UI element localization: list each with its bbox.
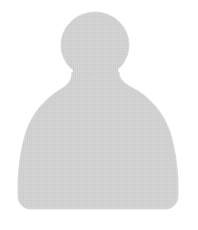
- avatar-neck-shape: [73, 60, 118, 78]
- avatar-placeholder: Generic person silhouette avatar placeho…: [0, 0, 198, 230]
- avatar-icon: [0, 0, 198, 230]
